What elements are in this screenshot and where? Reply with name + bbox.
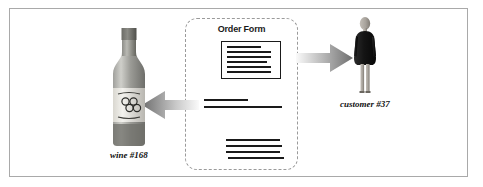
order-line — [226, 145, 282, 147]
diagram-canvas: Order Form — [0, 0, 483, 187]
order-line-item-group-middle — [204, 99, 282, 113]
customer-caption: customer #37 — [326, 99, 404, 109]
order-line — [226, 151, 280, 153]
document-text-line — [227, 56, 271, 58]
order-line — [226, 139, 280, 141]
order-line — [204, 106, 282, 108]
order-form-title: Order Form — [185, 24, 298, 34]
document-text-line — [227, 66, 271, 68]
order-line-item-group-bottom — [226, 139, 282, 163]
order-line — [204, 99, 248, 101]
document-text-line — [227, 61, 267, 63]
customer-figure-icon — [345, 16, 385, 96]
document-text-line — [227, 46, 261, 48]
wine-caption: wine #168 — [97, 150, 161, 160]
document-text-line — [227, 71, 271, 73]
document-text-line — [227, 51, 271, 53]
order-line — [228, 157, 284, 159]
order-form-document — [221, 41, 281, 79]
wine-bottle-icon — [107, 26, 151, 148]
